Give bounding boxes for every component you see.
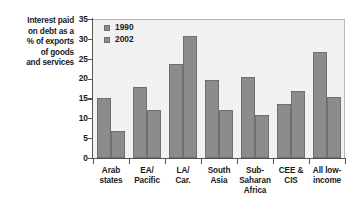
legend-swatch-icon <box>104 37 110 43</box>
y-tick-label: 5 <box>62 134 88 142</box>
x-tick-mark <box>273 159 274 164</box>
y-tick-label: 35 <box>62 15 88 23</box>
bar-2002-1[interactable] <box>147 110 161 158</box>
x-tick-label: SouthAsia <box>201 166 237 186</box>
x-tick-label: LA/Car. <box>165 166 201 186</box>
bar-2002-3[interactable] <box>219 110 233 158</box>
x-axis-line <box>92 158 346 159</box>
bar-1990-2[interactable] <box>169 64 183 158</box>
y-tick-label: 30 <box>62 35 88 43</box>
bar-2002-4[interactable] <box>255 115 269 158</box>
x-tick-mark <box>129 159 130 164</box>
bar-1990-0[interactable] <box>97 98 111 158</box>
x-tick-label-line: Pacific <box>129 176 165 186</box>
bar-1990-1[interactable] <box>133 87 147 158</box>
x-tick-mark <box>201 159 202 164</box>
x-tick-label: EA/Pacific <box>129 166 165 186</box>
bar-1990-3[interactable] <box>205 80 219 158</box>
x-tick-mark <box>93 159 94 164</box>
bar-2002-2[interactable] <box>183 36 197 158</box>
bar-2002-0[interactable] <box>111 131 125 158</box>
x-tick-mark <box>309 159 310 164</box>
y-tick-label: 25 <box>62 55 88 63</box>
bar-2002-5[interactable] <box>291 91 305 159</box>
x-tick-label-line: CEE & <box>273 166 309 176</box>
bar-1990-5[interactable] <box>277 104 291 158</box>
x-tick-label: CEE &CIS <box>273 166 309 186</box>
x-tick-mark <box>237 159 238 164</box>
bar-1990-4[interactable] <box>241 77 255 158</box>
x-tick-label: Sub-SaharanAfrica <box>237 166 273 197</box>
x-tick-label-line: LA/ <box>165 166 201 176</box>
x-tick-label-line: Arab <box>93 166 129 176</box>
x-tick-label: All low-income <box>309 166 345 186</box>
legend-swatch-icon <box>104 25 110 31</box>
legend-label: 2002 <box>115 35 134 44</box>
x-tick-label-line: Sub- <box>237 166 273 176</box>
x-tick-label-line: states <box>93 176 129 186</box>
y-tick-label: 10 <box>62 114 88 122</box>
legend-item-2002[interactable]: 2002 <box>104 34 134 45</box>
x-tick-label-line: Africa <box>237 186 273 196</box>
y-axis-line <box>92 18 93 159</box>
x-tick-label-line: South <box>201 166 237 176</box>
x-tick-mark <box>165 159 166 164</box>
legend-label: 1990 <box>115 23 134 32</box>
x-tick-label-line: EA/ <box>129 166 165 176</box>
bar-1990-6[interactable] <box>313 52 327 158</box>
bar-2002-6[interactable] <box>327 97 341 158</box>
x-tick-label-line: income <box>309 176 345 186</box>
x-tick-label-line: All low- <box>309 166 345 176</box>
x-tick-label: Arabstates <box>93 166 129 186</box>
x-tick-label-line: Saharan <box>237 176 273 186</box>
x-tick-label-line: CIS <box>273 176 309 186</box>
y-tick-label: 20 <box>62 74 88 82</box>
x-tick-mark <box>345 159 346 164</box>
x-tick-label-line: Car. <box>165 176 201 186</box>
chart-figure: Interest paid on debt as a % of exports … <box>0 0 349 209</box>
y-tick-label: 15 <box>62 94 88 102</box>
x-tick-label-line: Asia <box>201 176 237 186</box>
y-tick-label: 0 <box>62 154 88 162</box>
legend-item-1990[interactable]: 1990 <box>104 22 134 33</box>
legend: 1990 2002 <box>104 22 134 46</box>
